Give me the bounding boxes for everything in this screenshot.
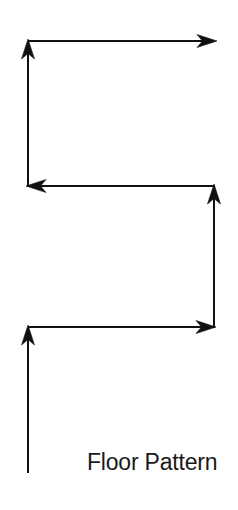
figure-caption: Floor Pattern: [87, 449, 217, 475]
floor-pattern-svg: [0, 0, 238, 510]
floor-pattern-diagram: [0, 0, 238, 510]
